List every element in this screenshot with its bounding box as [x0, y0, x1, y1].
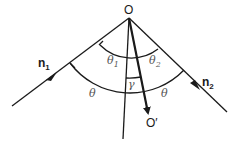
right-boundary-line	[129, 18, 227, 112]
n1-label: n1	[38, 56, 50, 72]
reflection-diagram: O O′ n1 n2 θ1 θ2 γ θ θ	[0, 0, 235, 144]
theta-right-label: θ	[161, 87, 168, 100]
arc-tick	[99, 41, 103, 45]
theta2-label: θ2	[149, 54, 161, 69]
gamma-label: γ	[128, 78, 135, 91]
theta-left-label: θ	[89, 87, 96, 100]
point-o-label: O	[124, 3, 133, 17]
n2-label: n2	[202, 75, 214, 91]
n1-direction-arrow-icon	[46, 72, 57, 81]
arc-tick	[70, 63, 75, 68]
point-o-prime-label: O′	[146, 116, 158, 130]
o-prime-arrow	[129, 18, 148, 113]
